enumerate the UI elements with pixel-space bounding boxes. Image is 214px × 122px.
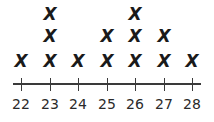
tick-23 [50, 78, 51, 91]
tick-label-23: 23 [38, 96, 62, 112]
tick-label-27: 27 [152, 96, 176, 112]
x-mark-icon: X [154, 51, 174, 71]
x-mark-icon: X [125, 51, 145, 71]
tick-22 [21, 78, 22, 91]
tick-24 [78, 78, 79, 91]
x-mark-icon: X [97, 26, 117, 46]
tick-label-22: 22 [9, 96, 33, 112]
x-mark-icon: X [11, 51, 31, 71]
x-mark-icon: X [125, 4, 145, 24]
x-mark-icon: X [125, 26, 145, 46]
dot-plot: 22X23XXX24X25XX26XXX27XX28X [0, 0, 214, 122]
tick-label-28: 28 [180, 96, 204, 112]
tick-label-24: 24 [66, 96, 90, 112]
tick-27 [164, 78, 165, 91]
x-mark-icon: X [40, 26, 60, 46]
x-mark-icon: X [154, 26, 174, 46]
tick-25 [107, 78, 108, 91]
tick-label-26: 26 [123, 96, 147, 112]
tick-26 [135, 78, 136, 91]
x-mark-icon: X [182, 51, 202, 71]
x-mark-icon: X [68, 51, 88, 71]
x-mark-icon: X [40, 51, 60, 71]
x-mark-icon: X [40, 4, 60, 24]
x-mark-icon: X [97, 51, 117, 71]
tick-label-25: 25 [95, 96, 119, 112]
tick-28 [192, 78, 193, 91]
